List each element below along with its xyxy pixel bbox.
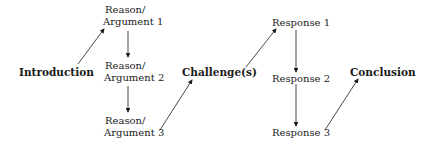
node-reason-argument-2: Reason/ Argument 2 xyxy=(104,60,164,84)
arrow-reason3-to-challenges xyxy=(160,80,192,130)
node-conclusion: Conclusion xyxy=(350,66,416,78)
node-reason3-line1: Reason/ xyxy=(104,115,164,127)
node-response-3: Response 3 xyxy=(272,127,330,139)
node-introduction: Introduction xyxy=(19,66,94,78)
node-reason-argument-3: Reason/ Argument 3 xyxy=(104,115,164,139)
node-reason1-line1: Reason/ xyxy=(103,4,163,16)
arrow-intro-to-reason1 xyxy=(78,29,104,64)
node-reason2-line2: Argument 2 xyxy=(104,72,164,84)
node-challenges: Challenge(s) xyxy=(182,66,257,78)
arrow-response3-to-conclusion xyxy=(325,79,358,130)
arrow-challenges-to-response1 xyxy=(246,29,276,67)
node-response-2: Response 2 xyxy=(272,73,330,85)
node-reason3-line2: Argument 3 xyxy=(104,127,164,139)
node-reason-argument-1: Reason/ Argument 1 xyxy=(103,4,163,28)
node-reason2-line1: Reason/ xyxy=(104,60,164,72)
node-response-1: Response 1 xyxy=(272,17,330,29)
node-reason1-line2: Argument 1 xyxy=(103,16,163,28)
